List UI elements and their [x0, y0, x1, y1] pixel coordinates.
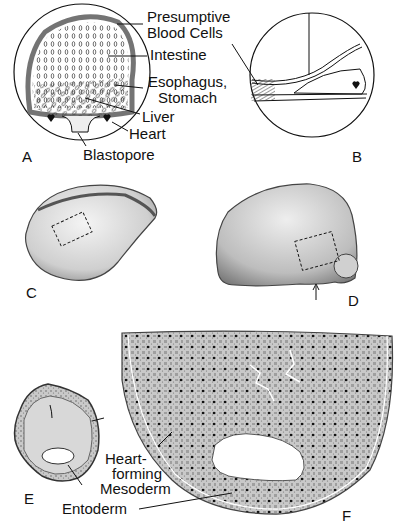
panel-d-drawing — [216, 184, 358, 300]
panel-label-d: D — [348, 292, 359, 309]
label-heart-forming-2: forming — [112, 466, 162, 481]
panel-e-drawing — [15, 384, 99, 481]
panel-label-f: F — [342, 507, 351, 524]
label-heart-forming-3: Mesoderm — [100, 481, 171, 496]
label-presumptive: Presumptive — [147, 9, 230, 24]
label-heart-forming-1: Heart- — [105, 451, 147, 466]
label-blastopore: Blastopore — [83, 147, 155, 162]
label-blood-cells: Blood Cells — [147, 25, 223, 40]
label-intestine: Intestine — [150, 47, 207, 62]
panel-label-e: E — [24, 490, 34, 507]
panel-c-drawing — [26, 185, 157, 280]
label-stomach: Stomach — [158, 90, 217, 105]
label-heart: Heart — [129, 126, 166, 141]
panel-label-b: B — [352, 148, 362, 165]
panel-label-a: A — [22, 148, 32, 165]
label-esophagus: Esophagus, — [148, 74, 227, 89]
panel-b-drawing — [232, 13, 374, 137]
label-liver: Liver — [142, 109, 175, 124]
panel-label-c: C — [26, 284, 37, 301]
label-entoderm: Entoderm — [62, 501, 127, 516]
